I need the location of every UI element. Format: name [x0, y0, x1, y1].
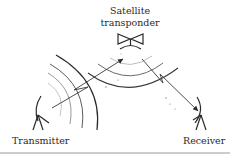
- receiver-antenna-icon: [193, 97, 206, 130]
- satellite-transponder-icon: [118, 34, 143, 49]
- downlink-arrow: [142, 59, 198, 111]
- satellite-label-line2: transponder: [100, 18, 159, 28]
- transmitter-label: Transmitter: [12, 136, 69, 146]
- satellite-wave-arcs: [88, 56, 178, 87]
- receiver-label: Receiver: [183, 136, 225, 146]
- satellite-link-diagram: Satellite transponder Transmitter Receiv…: [0, 0, 230, 159]
- satellite-label-line1: Satellite: [110, 6, 150, 16]
- transmitter-antenna-icon: [33, 96, 49, 130]
- transmitter-wave-arcs: [48, 55, 98, 130]
